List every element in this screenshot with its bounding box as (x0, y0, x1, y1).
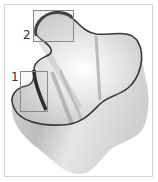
callout-box-2 (34, 11, 74, 42)
callout-label-1: 1 (11, 71, 19, 83)
callout-box-1 (21, 72, 48, 112)
callout-label-2: 2 (23, 29, 31, 41)
